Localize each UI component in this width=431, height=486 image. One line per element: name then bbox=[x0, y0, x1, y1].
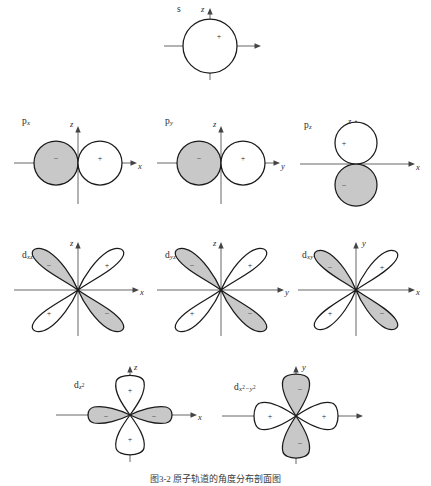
lobe-dxy-upper-left-negative bbox=[314, 250, 356, 290]
axis-arrow-x bbox=[357, 413, 364, 418]
sign-dxz-upper-right: + bbox=[105, 261, 110, 270]
lobe-dxz-lower-left-positive bbox=[32, 290, 78, 332]
lobe-py-positive bbox=[221, 141, 265, 185]
axis-label-dyz-y: y bbox=[285, 287, 289, 297]
axis-label-py-y: y bbox=[281, 161, 285, 171]
sign-dyz-upper-right: + bbox=[248, 261, 253, 270]
orbital-dyz: dyz − + + − z y bbox=[155, 236, 297, 340]
sign-dx2y2-right: + bbox=[322, 412, 327, 421]
sign-dz2-bottom: + bbox=[128, 435, 133, 444]
axis-arrow-x bbox=[131, 160, 138, 165]
lobe-dyz-lower-left-positive bbox=[175, 290, 221, 332]
orbital-px-label: px bbox=[22, 116, 30, 126]
axis-arrow-z bbox=[218, 242, 223, 249]
orbital-dz2: dz2 + + − − z x bbox=[52, 360, 210, 466]
orbital-dxy-label: dxy bbox=[302, 250, 313, 260]
orbital-dz2-label: dz2 bbox=[74, 380, 85, 390]
lobe-dxz-lower-right-negative bbox=[78, 290, 124, 332]
axis-arrow-y bbox=[274, 160, 281, 165]
axis-arrow-y bbox=[278, 287, 285, 292]
axis-arrow-z bbox=[127, 366, 132, 373]
axis-label-s-z: z bbox=[201, 4, 204, 14]
axis-label-pz-z: z bbox=[348, 116, 351, 126]
axis-label-dx2y2-y: y bbox=[302, 362, 306, 372]
axis-arrow-z bbox=[207, 8, 212, 15]
orbital-dxz-label: dxz bbox=[22, 250, 33, 260]
axis-label-dz2-z: z bbox=[134, 362, 137, 372]
sign-dxz-lower-right: − bbox=[105, 309, 110, 318]
sign-dx2y2-bottom: − bbox=[298, 439, 303, 448]
axis-arrow-x bbox=[133, 287, 140, 292]
lobe-dxy-lower-left-positive bbox=[314, 290, 356, 330]
sign-dz2-left: − bbox=[104, 412, 109, 421]
orbital-s-label: s bbox=[177, 4, 181, 14]
axis-arrow-y bbox=[353, 242, 358, 249]
orbital-angular-distribution-figure: s + z px − + z x bbox=[0, 0, 431, 486]
sign-dxy-lower-left: + bbox=[328, 309, 333, 318]
lobe-px-positive bbox=[78, 141, 122, 185]
sign-dxy-upper-right: + bbox=[380, 263, 385, 272]
lobe-py-negative bbox=[177, 141, 221, 185]
sign-dyz-upper-left: − bbox=[190, 261, 195, 270]
sign-dxz-lower-left: + bbox=[47, 309, 52, 318]
sign-dxy-upper-left: − bbox=[328, 263, 333, 272]
sign-px-positive: + bbox=[98, 154, 103, 163]
sign-dyz-lower-left: + bbox=[190, 309, 195, 318]
axis-arrow-horizontal bbox=[255, 43, 262, 48]
orbital-dxy: dxy − + + − y x bbox=[296, 236, 428, 340]
lobe-s-positive bbox=[183, 19, 237, 73]
sign-pz-positive: + bbox=[342, 139, 347, 148]
lobe-dyz-lower-right-negative bbox=[221, 290, 267, 332]
axis-arrow-y bbox=[293, 366, 298, 373]
lobe-px-negative bbox=[34, 141, 78, 185]
lobe-dyz-upper-left-negative bbox=[175, 248, 221, 290]
orbital-py-label: py bbox=[165, 116, 173, 126]
orbital-dyz-label: dyz bbox=[165, 250, 176, 260]
lobe-dz2-left-negative bbox=[88, 407, 130, 424]
axis-arrow-x bbox=[191, 412, 198, 417]
axis-label-py-z: z bbox=[213, 119, 216, 129]
sign-dz2-right: − bbox=[152, 412, 157, 421]
sign-dx2y2-left: + bbox=[268, 412, 273, 421]
axis-label-pz-x: x bbox=[416, 162, 420, 172]
sign-dxy-lower-right: − bbox=[380, 309, 385, 318]
orbital-dxz: dxz − + + − z x bbox=[12, 236, 152, 340]
lobe-dxy-lower-right-negative bbox=[356, 290, 398, 330]
axis-arrow-z bbox=[218, 126, 223, 133]
orbital-dx2y2-label: dx2−y2 bbox=[234, 382, 256, 392]
lobe-dxz-upper-left-negative bbox=[32, 248, 78, 290]
figure-caption: 图3-2 原子轨道的角度分布剖面图 bbox=[0, 472, 431, 486]
axis-label-dxz-z: z bbox=[70, 238, 73, 248]
axis-label-px-x: x bbox=[138, 161, 142, 171]
axis-label-dxy-y: y bbox=[362, 238, 366, 248]
sign-px-negative: − bbox=[54, 154, 59, 163]
axis-label-dyz-z: z bbox=[213, 238, 216, 248]
orbital-s: s + z bbox=[150, 4, 270, 84]
axis-arrow-x bbox=[409, 161, 416, 166]
lobe-dxz-upper-right-positive bbox=[78, 248, 124, 290]
lobe-dxy-upper-right-positive bbox=[356, 250, 398, 290]
lobe-dz2-top-positive bbox=[116, 375, 145, 415]
orbital-pz-label: pz bbox=[304, 120, 312, 130]
sign-py-negative: − bbox=[197, 154, 202, 163]
axis-arrow-z bbox=[75, 242, 80, 249]
sign-s-positive: + bbox=[217, 32, 222, 41]
orbital-py: py − + z y bbox=[155, 116, 287, 208]
sign-dxz-upper-left: − bbox=[47, 261, 52, 270]
sign-dz2-top: + bbox=[128, 386, 133, 395]
axis-label-px-z: z bbox=[70, 119, 73, 129]
axis-label-dxy-x: x bbox=[416, 287, 420, 297]
sign-pz-negative: − bbox=[342, 181, 347, 190]
orbital-pz: pz + − z x bbox=[296, 116, 428, 208]
sign-py-positive: + bbox=[241, 154, 246, 163]
lobe-dyz-upper-right-positive bbox=[221, 248, 267, 290]
axis-arrow-x bbox=[409, 287, 416, 292]
orbital-dx2y2: dx2−y2 − − + + y bbox=[218, 360, 376, 470]
sign-dx2y2-top: − bbox=[298, 385, 303, 394]
axis-label-dz2-x: x bbox=[198, 412, 202, 422]
orbital-px: px − + z x bbox=[12, 116, 144, 208]
axis-arrow-z bbox=[75, 126, 80, 133]
axis-label-dxz-x: x bbox=[140, 287, 144, 297]
sign-dyz-lower-right: − bbox=[248, 309, 253, 318]
